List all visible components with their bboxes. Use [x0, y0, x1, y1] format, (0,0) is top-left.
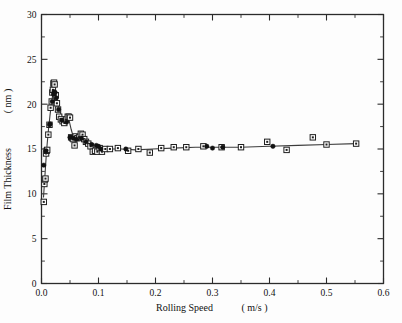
data-point-square-dot	[43, 183, 45, 185]
data-point-circle	[210, 146, 214, 150]
x-tick-labels: 0.00.10.20.30.40.50.6	[36, 288, 390, 298]
x-tick-label: 0.6	[378, 288, 390, 298]
data-point-square-dot	[185, 146, 187, 148]
x-tick-label: 0.5	[321, 288, 333, 298]
data-point-square-dot	[54, 83, 56, 85]
data-point-circle	[50, 99, 54, 103]
x-axis-units: ( m/s )	[241, 302, 267, 314]
data-point-square-dot	[56, 102, 58, 104]
x-tick-label: 0.0	[36, 288, 48, 298]
data-point-circle	[84, 140, 88, 144]
data-point-circle	[271, 144, 275, 148]
data-point-circle	[99, 147, 103, 151]
data-point-circle	[54, 96, 58, 100]
y-tick-label: 5	[32, 234, 37, 244]
y-tick-label: 20	[27, 100, 37, 110]
data-point-square-dot	[74, 144, 76, 146]
data-point-square-dot	[240, 146, 242, 148]
series-squares	[41, 80, 359, 205]
y-tick-label: 30	[27, 10, 37, 20]
data-point-circle	[221, 145, 225, 149]
data-point-circle	[89, 142, 93, 146]
figure-container: 0.00.10.20.30.40.50.6 051015202530 Rolli…	[0, 0, 402, 323]
data-point-square-dot	[117, 147, 119, 149]
data-point-square-dot	[160, 147, 162, 149]
x-tick-label: 0.3	[207, 288, 219, 298]
data-point-square-dot	[326, 144, 328, 146]
data-point-square-dot	[266, 141, 268, 143]
scatter-plot: 0.00.10.20.30.40.50.6 051015202530 Rolli…	[0, 0, 402, 323]
data-point-square-dot	[202, 145, 204, 147]
x-tick-label: 0.4	[264, 288, 276, 298]
data-point-square-dot	[109, 148, 111, 150]
series-circles	[42, 89, 276, 167]
data-point-circle	[60, 118, 64, 122]
data-point-square-dot	[43, 201, 45, 203]
data-point-square-dot	[173, 146, 175, 148]
data-point-circle	[53, 90, 57, 94]
data-point-circle	[79, 136, 83, 140]
data-point-circle	[75, 137, 79, 141]
data-point-circle	[124, 147, 128, 151]
y-tick-labels: 051015202530	[27, 10, 37, 289]
data-point-circle	[205, 144, 209, 148]
x-axis-title: Rolling Speed	[156, 302, 213, 313]
data-point-square-dot	[286, 149, 288, 151]
y-tick-label: 0	[32, 279, 37, 289]
data-point-circle	[64, 120, 68, 124]
data-point-circle	[44, 149, 48, 153]
y-tick-label: 10	[27, 189, 37, 199]
data-point-circle	[56, 107, 60, 111]
y-axis-title: Film Thickness	[2, 148, 13, 210]
data-point-square-dot	[104, 148, 106, 150]
data-point-circle	[48, 122, 52, 126]
y-axis-units: ( nm )	[2, 89, 14, 113]
y-tick-label: 25	[27, 55, 37, 65]
data-point-square-dot	[312, 136, 314, 138]
data-point-circle	[42, 163, 46, 167]
y-tick-label: 15	[27, 144, 37, 154]
x-tick-label: 0.1	[93, 288, 105, 298]
data-point-square-dot	[355, 143, 357, 145]
x-tick-label: 0.2	[150, 288, 162, 298]
data-point-square-dot	[50, 107, 52, 109]
data-point-square-dot	[44, 178, 46, 180]
data-point-square-dot	[82, 134, 84, 136]
data-point-square-dot	[47, 134, 49, 136]
data-point-square-dot	[137, 148, 139, 150]
data-point-square-dot	[149, 152, 151, 154]
data-point-square-dot	[69, 117, 71, 119]
